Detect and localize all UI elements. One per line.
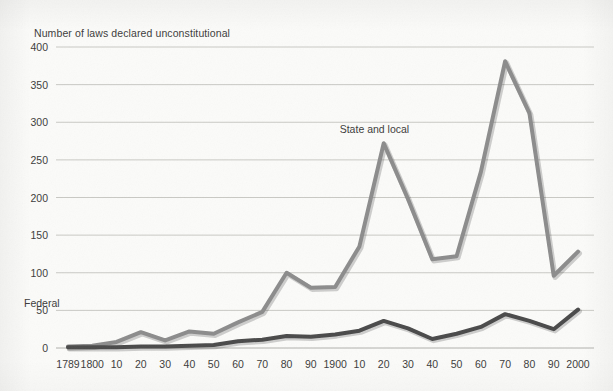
gridlines [56,47,594,348]
series-line-federal [68,310,578,348]
series-label-federal: Federal [24,297,60,309]
series-label-state-and-local: State and local [340,123,409,135]
chart-container: Number of laws declared unconstitutional… [0,0,613,391]
series-line-shadow [69,63,579,348]
series-line-state-and-local [68,61,578,346]
series-lines [68,61,579,349]
plot-area [0,0,613,391]
